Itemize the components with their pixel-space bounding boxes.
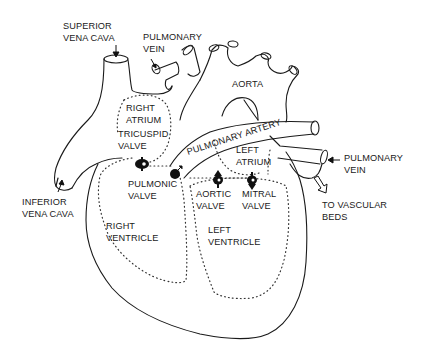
svg-text:MITRAL: MITRAL: [242, 189, 276, 199]
svg-text:SUPERIOR: SUPERIOR: [63, 21, 112, 31]
pulmonary-vein-right-shape: [270, 136, 329, 178]
svg-text:LEFT: LEFT: [236, 145, 259, 155]
mitral-valve-icon: [247, 172, 257, 190]
svg-text:VENA CAVA: VENA CAVA: [63, 33, 115, 43]
heart-diagram: SUPERIOR VENA CAVA PULMONARY VEIN AORTA …: [0, 0, 429, 357]
label-superior-vena-cava: SUPERIOR VENA CAVA: [63, 21, 115, 43]
svg-text:VENA CAVA: VENA CAVA: [22, 209, 74, 219]
svg-text:VALVE: VALVE: [118, 141, 147, 151]
svg-text:VENTRICLE: VENTRICLE: [106, 233, 158, 243]
svg-text:VALVE: VALVE: [242, 201, 271, 211]
label-pulmonary-vein-top: PULMONARY VEIN: [143, 32, 202, 54]
svg-text:BEDS: BEDS: [322, 212, 347, 222]
label-tricuspid-valve: TRICUSPID VALVE: [118, 129, 169, 151]
heart-outline: [86, 152, 307, 339]
label-inferior-vena-cava: INFERIOR VENA CAVA: [22, 197, 74, 219]
pulmonic-valve-icon: [170, 166, 182, 179]
svg-text:INFERIOR: INFERIOR: [22, 197, 67, 207]
pulmonary-vein-right-arrow-icon: [328, 157, 340, 163]
svg-text:TRICUSPID: TRICUSPID: [118, 129, 169, 139]
svg-text:RIGHT: RIGHT: [126, 103, 155, 113]
svg-text:VALVE: VALVE: [196, 201, 225, 211]
svg-text:VENTRICLE: VENTRICLE: [208, 237, 260, 247]
inferior-vena-cava-shape: [56, 158, 122, 190]
svg-text:PULMONIC: PULMONIC: [128, 179, 178, 189]
svg-text:ATRIUM: ATRIUM: [236, 157, 271, 167]
svg-text:VEIN: VEIN: [143, 44, 165, 54]
label-right-ventricle: RIGHT VENTRICLE: [106, 221, 158, 243]
svg-text:PULMONARY: PULMONARY: [143, 32, 202, 42]
svg-text:VALVE: VALVE: [128, 191, 157, 201]
label-aortic-valve: AORTIC VALVE: [196, 189, 231, 211]
label-left-atrium: LEFT ATRIUM: [236, 145, 271, 167]
tricuspid-valve-icon: [135, 157, 149, 171]
svg-text:LEFT: LEFT: [208, 225, 231, 235]
aortic-valve-icon: [213, 170, 223, 188]
label-left-ventricle: LEFT VENTRICLE: [208, 225, 260, 247]
svg-text:PULMONARY: PULMONARY: [344, 153, 403, 163]
label-aorta: AORTA: [232, 79, 264, 89]
label-right-atrium: RIGHT ATRIUM: [126, 103, 161, 125]
label-mitral-valve: MITRAL VALVE: [242, 189, 276, 211]
svg-text:ATRIUM: ATRIUM: [126, 115, 161, 125]
label-to-vascular-beds: TO VASCULAR BEDS: [322, 200, 387, 222]
label-pulmonic-valve: PULMONIC VALVE: [128, 179, 178, 201]
svg-text:RIGHT: RIGHT: [106, 221, 135, 231]
svg-text:TO VASCULAR: TO VASCULAR: [322, 200, 387, 210]
svg-text:AORTIC: AORTIC: [196, 189, 231, 199]
to-vascular-beds-arrow-icon: [314, 176, 327, 193]
label-pulmonary-vein-right: PULMONARY VEIN: [344, 153, 403, 175]
svg-text:VEIN: VEIN: [344, 165, 366, 175]
